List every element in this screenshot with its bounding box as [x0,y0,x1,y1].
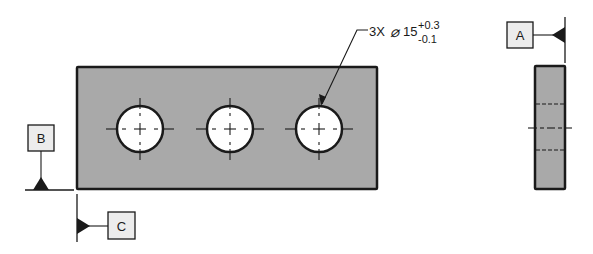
callout-upper-tolerance: +0.3 [418,19,440,31]
datum-b: B [25,125,74,190]
callout-lower-tolerance: -0.1 [418,33,437,45]
hole-callout: 3X ⌀ 15 +0.3 -0.1 [369,19,440,45]
datum-triangle-icon [552,27,565,43]
svg-text:⌀: ⌀ [390,23,401,40]
datum-triangle-icon [33,177,49,190]
svg-text:15: 15 [403,24,417,39]
callout-count: 3X [369,24,385,39]
engineering-drawing: 3X ⌀ 15 +0.3 -0.1 [0,0,593,254]
front-view: 3X ⌀ 15 +0.3 -0.1 [77,19,440,189]
datum-triangle-icon [77,218,90,234]
svg-text:+0.3: +0.3 [418,19,440,31]
side-view [528,66,572,189]
datum-c: C [77,194,135,242]
datum-a-label: A [516,28,525,43]
svg-text:3X: 3X [369,24,385,39]
datum-a: A [507,17,565,63]
datum-c-label: C [117,219,126,234]
datum-b-label: B [37,131,46,146]
diameter-symbol-icon: ⌀ [390,23,401,40]
callout-nominal: 15 [403,24,417,39]
svg-text:-0.1: -0.1 [418,33,437,45]
